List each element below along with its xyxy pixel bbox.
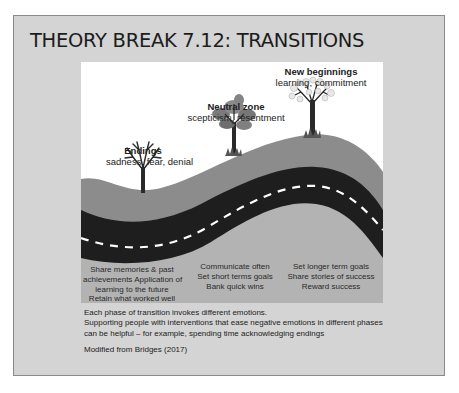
phase-neutral-zone: Neutral zone scepticism, resentment bbox=[186, 101, 286, 123]
phase-emotions: learning, commitment bbox=[271, 77, 371, 88]
phase-emotions: sadness, fear, denial bbox=[106, 156, 180, 167]
slide: THEORY BREAK 7.12: TRANSITIONS bbox=[13, 15, 445, 376]
action-item: Reward success bbox=[281, 282, 381, 292]
action-item: Share memories & past bbox=[83, 265, 181, 275]
action-item: Bank quick wins bbox=[189, 282, 281, 292]
action-item: Communicate often bbox=[189, 262, 281, 272]
caption-line: Each phase of transition invokes differe… bbox=[84, 308, 383, 318]
slide-title: THEORY BREAK 7.12: TRANSITIONS bbox=[30, 29, 364, 52]
action-item: Set longer term goals bbox=[281, 262, 381, 272]
actions-endings: Share memories & past achievements Appli… bbox=[83, 265, 181, 303]
actions-neutral-zone: Communicate often Set short terms goals … bbox=[189, 262, 281, 291]
action-item: Share stories of success bbox=[281, 272, 381, 282]
action-item: learning to the future bbox=[83, 285, 181, 295]
transitions-diagram: Endings sadness, fear, denial Neutral zo… bbox=[81, 62, 383, 303]
caption-line: can be helpful – for example, spending t… bbox=[84, 329, 383, 339]
source-citation: Modified from Bridges (2017) bbox=[84, 345, 383, 355]
phase-emotions: scepticism, resentment bbox=[186, 112, 286, 123]
caption-line: Supporting people with interventions tha… bbox=[84, 318, 383, 328]
phase-name: Endings bbox=[106, 145, 180, 156]
action-item: achievements Application of bbox=[83, 275, 181, 285]
phase-name: Neutral zone bbox=[186, 101, 286, 112]
phase-endings: Endings sadness, fear, denial bbox=[106, 145, 180, 167]
action-item: Retain what worked well bbox=[83, 294, 181, 303]
action-item: Set short terms goals bbox=[189, 272, 281, 282]
phase-new-beginnings: New beginnings learning, commitment bbox=[271, 66, 371, 88]
caption: Each phase of transition invokes differe… bbox=[84, 308, 383, 355]
phase-name: New beginnings bbox=[271, 66, 371, 77]
actions-new-beginnings: Set longer term goals Share stories of s… bbox=[281, 262, 381, 291]
